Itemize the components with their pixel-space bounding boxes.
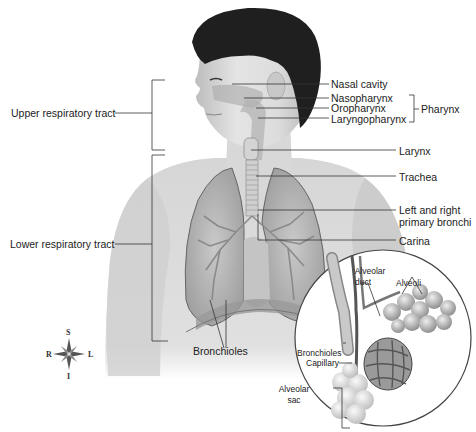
- label-alveoli: Alveoli: [396, 278, 421, 288]
- label-laryngopharynx: Laryngopharynx: [331, 113, 406, 125]
- compass-inferior: I: [67, 372, 70, 381]
- alveoli-inset-circle: [295, 250, 471, 426]
- trachea-rings: [246, 160, 258, 216]
- label-bronchioles: Bronchioles: [193, 345, 248, 357]
- respiratory-diagram: Upper respiratory tract Lower respirator…: [0, 0, 476, 432]
- label-carina: Carina: [399, 235, 430, 247]
- label-lower-respiratory-tract: Lower respiratory tract: [10, 238, 114, 250]
- label-pharynx: Pharynx: [421, 103, 460, 115]
- capillary-network: [364, 338, 412, 390]
- label-alveolar-sac-line2: sac: [274, 395, 314, 405]
- label-alveolar-duct-line1: Alveolar: [350, 266, 390, 276]
- label-inset-bronchioles: Bronchioles: [297, 348, 341, 358]
- label-bronchi-line2: primary bronchi: [399, 216, 471, 228]
- label-trachea: Trachea: [399, 171, 437, 183]
- compass-right: R: [46, 350, 52, 359]
- label-upper-respiratory-tract: Upper respiratory tract: [11, 107, 115, 119]
- compass-rose: [53, 338, 85, 370]
- label-alveolar-sac-line1: Alveolar: [274, 384, 314, 394]
- label-bronchi-line1: Left and right: [399, 204, 460, 216]
- label-nasal-cavity: Nasal cavity: [331, 78, 388, 90]
- label-alveolar-duct-line2: duct: [355, 277, 371, 287]
- compass-left: L: [88, 350, 93, 359]
- label-capillary: Capillary: [306, 358, 339, 368]
- compass-superior: S: [66, 328, 70, 337]
- label-larynx: Larynx: [399, 145, 431, 157]
